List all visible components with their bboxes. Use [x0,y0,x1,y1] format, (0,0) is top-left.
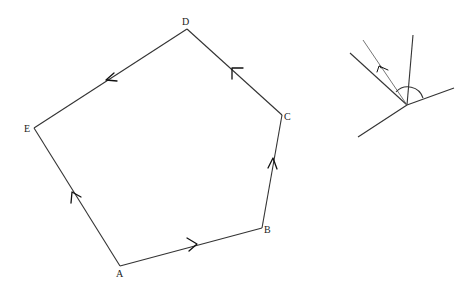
vector-line [363,40,407,105]
right-ray [407,88,454,105]
lower-left-ray [358,105,407,137]
vertex-labels: A B C D E [24,16,291,279]
vertex-label-e: E [24,123,30,134]
diagram-canvas: A B C D E [0,0,476,298]
arrowhead-de-icon [106,73,117,81]
vertex-label-a: A [116,268,124,279]
vertex-label-b: B [264,224,271,235]
upper-left-ray [350,53,407,105]
edge-ab [120,228,262,266]
pentagon [34,29,282,266]
angle-arc [396,87,423,98]
arrowhead-ab-icon [187,238,197,251]
vertex-label-c: C [284,111,291,122]
vertical-ray [407,35,413,105]
edge-bc [262,115,282,228]
edge-ea [34,128,120,266]
angle-diagram [350,35,454,137]
vertex-label-d: D [182,16,189,27]
edge-cd [187,29,282,115]
arrowhead-cd-icon [232,68,243,79]
edge-de [34,29,187,128]
